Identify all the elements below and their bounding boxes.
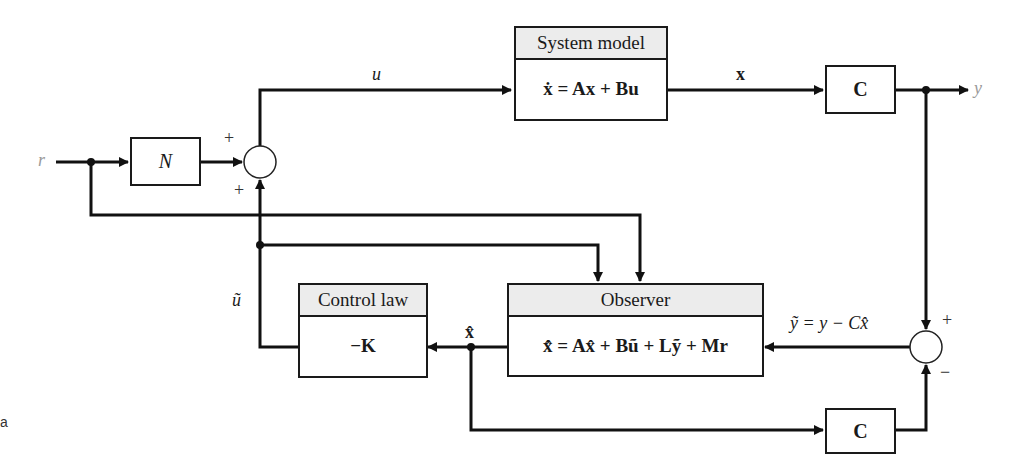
wire-utilde-to-observer xyxy=(260,245,598,281)
gain-n-block: N xyxy=(130,137,201,186)
wire-u xyxy=(260,90,511,146)
signal-label-x: x xyxy=(736,64,745,85)
output-matrix-top-label: C xyxy=(827,67,894,112)
signal-label-xhat: x̂ xyxy=(465,322,474,343)
input-summing-junction xyxy=(244,146,276,178)
system-model-header: System model xyxy=(516,28,666,60)
error-summing-junction xyxy=(910,331,942,363)
observer-header: Observer xyxy=(509,285,762,317)
observer-block: Observer x̂̇ = Ax̂ + Bũ + Lỹ + Mr xyxy=(507,283,764,377)
output-matrix-bottom-block: C xyxy=(825,408,896,454)
junction-dot-utilde xyxy=(256,241,264,249)
signal-label-u: u xyxy=(372,64,381,85)
signal-label-utilde: ũ xyxy=(232,290,241,311)
error-sum-bottom-sign: − xyxy=(940,362,950,383)
input-sum-bottom-sign: + xyxy=(234,180,244,201)
output-matrix-top-block: C xyxy=(825,65,896,114)
signal-label-y: y xyxy=(974,78,982,99)
gain-n-label: N xyxy=(132,139,199,184)
control-law-gain: −K xyxy=(300,317,426,375)
wire-c-to-error-sum xyxy=(895,365,926,430)
signal-label-r: r xyxy=(38,150,45,171)
wire-utilde xyxy=(260,180,298,347)
system-model-block: System model ẋ = Ax + Bu xyxy=(514,26,668,121)
junction-dot-y xyxy=(922,86,930,94)
error-sum-top-sign: + xyxy=(942,310,952,331)
junction-dot-xhat xyxy=(467,343,475,351)
corner-label: a xyxy=(0,414,8,430)
observer-equation: x̂̇ = Ax̂ + Bũ + Lỹ + Mr xyxy=(509,317,762,375)
control-law-header: Control law xyxy=(300,285,426,317)
system-model-equation: ẋ = Ax + Bu xyxy=(516,60,666,118)
signal-label-ytilde: ỹ = y − Cx̂ xyxy=(790,313,868,334)
output-matrix-bottom-label: C xyxy=(827,410,894,452)
input-sum-top-sign: + xyxy=(224,128,234,149)
control-law-block: Control law −K xyxy=(298,283,428,378)
junction-dot-r xyxy=(87,158,95,166)
